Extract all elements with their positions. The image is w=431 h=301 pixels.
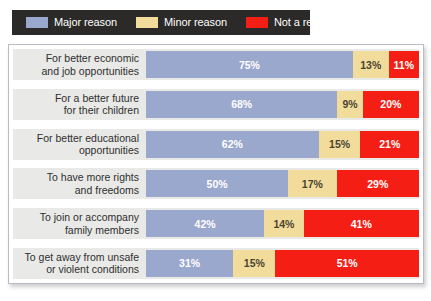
chart-segment-value: 9%	[342, 98, 357, 110]
chart-segment-major: 75%	[146, 51, 353, 78]
chart-row-label-line: and freedoms	[75, 184, 139, 197]
legend-swatch-major-reason	[26, 17, 48, 28]
chart-row: For better educationalopportunities62%15…	[13, 129, 419, 160]
chart-segment-value: 14%	[273, 218, 294, 230]
chart-segment-value: 75%	[239, 59, 260, 71]
chart-row-label: To join or accompanyfamily members	[13, 208, 146, 239]
chart-segment-value: 50%	[207, 178, 228, 190]
chart-row: To get away from unsafeor violent condit…	[13, 248, 419, 279]
chart-row-label-line: For a better future	[55, 92, 139, 105]
chart-segment-value: 15%	[329, 138, 350, 150]
chart-segment-value: 15%	[244, 257, 265, 269]
chart-row-label: To get away from unsafeor violent condit…	[13, 248, 146, 279]
chart-legend: Major reason Minor reason Not a reason	[12, 10, 310, 35]
chart-row-bars: 42%14%41%	[146, 208, 419, 239]
chart-segment-major: 42%	[146, 210, 264, 237]
chart-segment-value: 51%	[337, 257, 358, 269]
chart-row: To join or accompanyfamily members42%14%…	[13, 208, 419, 239]
legend-item-major-reason: Major reason	[26, 17, 117, 28]
chart-segment-minor: 17%	[288, 170, 336, 197]
chart-row: For a better futurefor their children68%…	[13, 89, 419, 120]
chart-row: To have more rightsand freedoms50%17%29%	[13, 168, 419, 199]
chart-segment-not: 51%	[275, 250, 419, 277]
chart-segment-major: 68%	[146, 91, 337, 118]
legend-label-not-a-reason: Not a reason	[274, 17, 336, 28]
chart-row-label-line: To join or accompany	[40, 211, 139, 224]
chart-segment-value: 21%	[379, 138, 400, 150]
legend-label-major-reason: Major reason	[54, 17, 117, 28]
chart-row-label-line: or violent conditions	[46, 263, 139, 276]
chart-segment-value: 13%	[360, 59, 381, 71]
chart-row-label-line: To have more rights	[47, 171, 139, 184]
chart-row-label-line: To get away from unsafe	[25, 251, 139, 264]
chart-segment-minor: 13%	[353, 51, 389, 78]
chart-segment-minor: 14%	[264, 210, 303, 237]
chart-segment-value: 29%	[367, 178, 388, 190]
chart-row: For better economicand job opportunities…	[13, 49, 419, 80]
chart-segment-minor: 9%	[337, 91, 362, 118]
chart-row-label-line: For better economic	[46, 52, 139, 65]
chart-row-bars: 50%17%29%	[146, 168, 419, 199]
legend-item-not-a-reason: Not a reason	[246, 17, 336, 28]
chart-panel: For better economicand job opportunities…	[8, 44, 424, 284]
legend-item-minor-reason: Minor reason	[136, 17, 227, 28]
chart-row-label-line: opportunities	[79, 144, 139, 157]
chart-segment-not: 41%	[304, 210, 419, 237]
chart-segment-not: 11%	[389, 51, 419, 78]
chart-segment-not: 20%	[363, 91, 419, 118]
legend-swatch-minor-reason	[136, 17, 158, 28]
chart-row-bars: 31%15%51%	[146, 248, 419, 279]
chart-segment-not: 21%	[360, 131, 419, 158]
chart-row-label-line: for their children	[64, 104, 139, 117]
legend-swatch-not-a-reason	[246, 17, 268, 28]
chart-segment-minor: 15%	[319, 131, 361, 158]
legend-label-minor-reason: Minor reason	[164, 17, 227, 28]
chart-row-bars: 75%13%11%	[146, 49, 419, 80]
chart-row-label-line: family members	[65, 224, 139, 237]
chart-segment-value: 68%	[231, 98, 252, 110]
chart-row-label: To have more rightsand freedoms	[13, 168, 146, 199]
chart-segment-value: 31%	[179, 257, 200, 269]
chart-segment-value: 41%	[351, 218, 372, 230]
chart-segment-value: 11%	[394, 59, 414, 71]
chart-rows: For better economicand job opportunities…	[13, 49, 419, 279]
chart-segment-not: 29%	[337, 170, 419, 197]
chart-segment-minor: 15%	[233, 250, 275, 277]
chart-row-label-line: and job opportunities	[42, 65, 140, 78]
chart-row-label-line: For better educational	[37, 132, 139, 145]
chart-row-label: For better economicand job opportunities	[13, 49, 146, 80]
chart-segment-value: 62%	[222, 138, 243, 150]
chart-segment-value: 17%	[302, 178, 323, 190]
chart-segment-value: 42%	[195, 218, 216, 230]
chart-row-bars: 62%15%21%	[146, 129, 419, 160]
chart-segment-major: 31%	[146, 250, 233, 277]
chart-row-bars: 68%9%20%	[146, 89, 419, 120]
chart-segment-major: 62%	[146, 131, 319, 158]
chart-row-label: For better educationalopportunities	[13, 129, 146, 160]
chart-row-label: For a better futurefor their children	[13, 89, 146, 120]
chart-segment-major: 50%	[146, 170, 288, 197]
chart-segment-value: 20%	[380, 98, 401, 110]
